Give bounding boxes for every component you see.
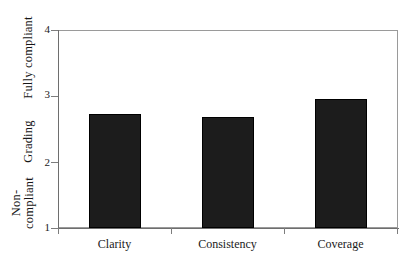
y-axis-title-non-compliant-line1: Non- bbox=[9, 190, 23, 217]
y-tick-label-3: 3 bbox=[36, 89, 50, 100]
bar-consistency bbox=[202, 117, 254, 228]
y-axis-title-non-compliant: Non- compliant bbox=[10, 156, 36, 250]
y-axis-line bbox=[58, 30, 59, 229]
y-tick-mark-2 bbox=[51, 162, 58, 163]
x-axis-label-clarity: Clarity bbox=[58, 237, 171, 251]
x-axis-label-coverage: Coverage bbox=[284, 237, 397, 251]
y-axis-title-fully-compliant: Fully compliant bbox=[21, 12, 36, 104]
x-tick-mark-3 bbox=[397, 228, 398, 234]
bar-chart: Fully compliant Grading Non- compliant 4… bbox=[0, 0, 415, 265]
y-tick-mark-4 bbox=[51, 30, 58, 31]
y-tick-mark-3 bbox=[51, 96, 58, 97]
x-tick-mark-1 bbox=[171, 228, 172, 234]
y-tick-label-1: 1 bbox=[36, 222, 50, 233]
bar-clarity bbox=[89, 114, 141, 228]
y-tick-mark-1 bbox=[51, 228, 58, 229]
y-tick-label-2: 2 bbox=[36, 157, 50, 168]
x-tick-mark-0 bbox=[58, 228, 59, 234]
x-tick-mark-2 bbox=[284, 228, 285, 234]
y-tick-label-4: 4 bbox=[36, 24, 50, 35]
y-axis-title-non-compliant-line2: compliant bbox=[23, 156, 36, 250]
x-axis-line bbox=[58, 228, 399, 229]
x-axis-label-consistency: Consistency bbox=[171, 237, 284, 251]
bar-coverage bbox=[315, 99, 367, 228]
